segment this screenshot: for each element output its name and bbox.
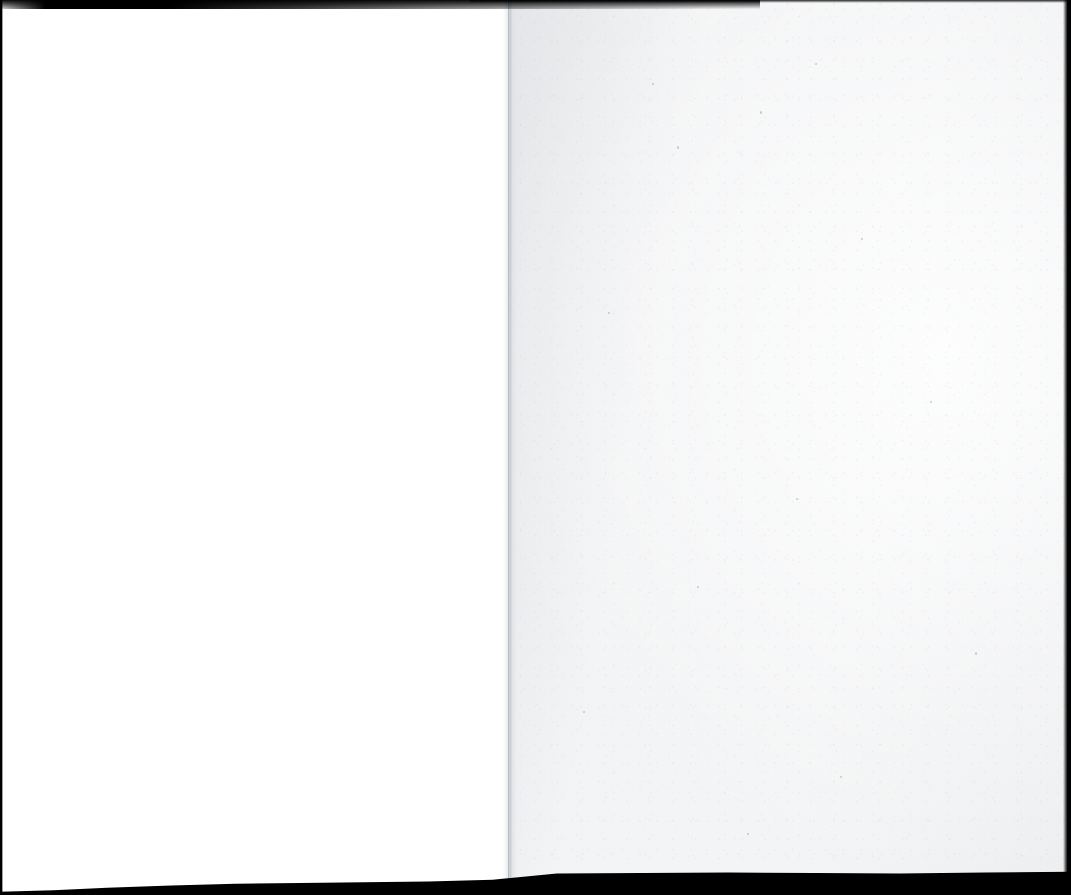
book-page-right	[509, 0, 1071, 895]
paper-speck	[677, 146, 679, 149]
paper-speck	[815, 63, 817, 65]
paper-speck	[760, 111, 762, 114]
book-page-left	[0, 0, 509, 895]
paper-speck	[796, 498, 798, 500]
paper-speck	[652, 83, 654, 85]
paper-speck	[583, 711, 585, 713]
paper-speck	[840, 776, 842, 778]
paper-speck	[608, 312, 610, 314]
scanned-spread-canvas: Scan of an open book showing two facing …	[0, 0, 1071, 895]
paper-grain-texture	[509, 0, 1071, 895]
paper-speck	[975, 652, 977, 655]
paper-tone-wash	[509, 0, 1071, 895]
paper-speck	[930, 401, 932, 403]
paper-speck	[697, 586, 699, 588]
paper-speck	[861, 238, 863, 240]
paper-speck	[747, 833, 749, 835]
